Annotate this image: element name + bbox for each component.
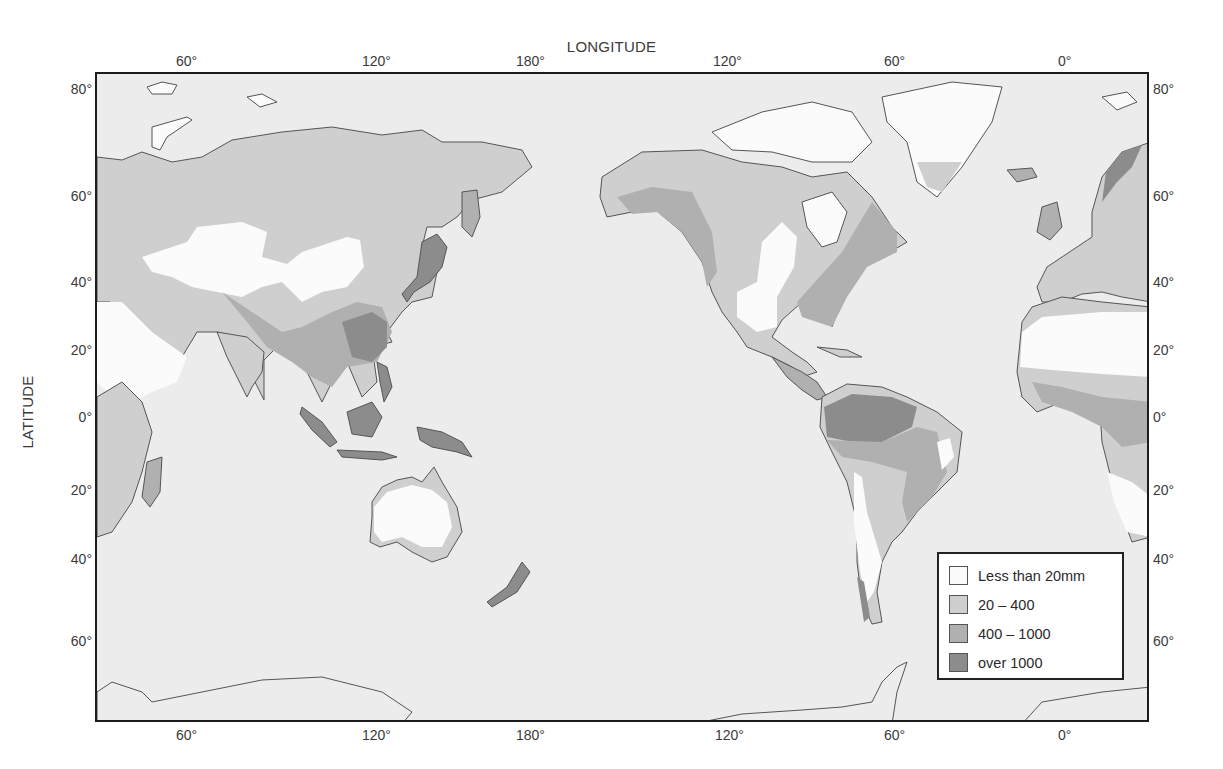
latitude-tick-label: 40°	[1153, 274, 1174, 290]
legend-label: 20 – 400	[978, 597, 1034, 613]
legend-label: 400 – 1000	[978, 626, 1051, 642]
antarctica-peninsula	[692, 662, 907, 722]
longitude-tick-label: 60°	[176, 727, 197, 743]
svalbard-east-islands	[1102, 92, 1137, 110]
java	[337, 450, 397, 460]
latitude-tick-label: 60°	[1153, 633, 1174, 649]
latitude-tick-label: 60°	[71, 633, 92, 649]
latitude-tick-label: 20°	[1153, 342, 1174, 358]
antarctica-west	[97, 677, 412, 722]
philippines	[377, 362, 392, 402]
latitude-tick-label: 60°	[1153, 188, 1174, 204]
longitude-tick-label: 120°	[713, 53, 742, 69]
latitude-tick-label: 0°	[79, 409, 92, 425]
new-guinea	[417, 427, 472, 457]
legend-label: over 1000	[978, 655, 1043, 671]
british-isles	[1037, 202, 1062, 240]
new-zealand	[487, 562, 530, 607]
precipitation-legend: Less than 20mm 20 – 400 400 – 1000 over …	[937, 552, 1124, 680]
latitude-tick-label: 20°	[1153, 482, 1174, 498]
madagascar	[142, 457, 162, 507]
legend-label: Less than 20mm	[978, 568, 1085, 584]
longitude-tick-label: 0°	[1058, 727, 1071, 743]
east-africa	[97, 382, 152, 537]
latitude-axis-title: LATITUDE	[19, 376, 36, 449]
legend-swatch-over-1000	[949, 653, 968, 672]
longitude-tick-label: 60°	[884, 727, 905, 743]
latitude-tick-label: 0°	[1153, 409, 1166, 425]
franz-josef-land	[247, 94, 277, 107]
latitude-tick-label: 20°	[71, 482, 92, 498]
cuba	[817, 347, 862, 357]
novaya-zemlya	[152, 117, 192, 150]
longitude-tick-label: 60°	[884, 53, 905, 69]
latitude-tick-label: 80°	[1153, 81, 1174, 97]
sumatra	[300, 407, 337, 447]
kamchatka	[462, 190, 480, 237]
longitude-tick-label: 120°	[362, 727, 391, 743]
legend-swatch-less-than-20	[949, 566, 968, 585]
svalbard	[147, 82, 177, 94]
antarctica-east	[1022, 687, 1149, 722]
legend-item: Less than 20mm	[949, 561, 1122, 590]
canadian-arctic-islands	[712, 102, 872, 162]
legend-item: over 1000	[949, 648, 1122, 677]
latitude-tick-label: 20°	[71, 342, 92, 358]
latitude-tick-label: 40°	[71, 551, 92, 567]
iceland	[1007, 168, 1037, 182]
longitude-tick-label: 60°	[176, 53, 197, 69]
borneo	[347, 402, 382, 437]
longitude-tick-label: 120°	[715, 727, 744, 743]
longitude-tick-label: 0°	[1058, 53, 1071, 69]
longitude-tick-label: 180°	[516, 727, 545, 743]
latitude-tick-label: 60°	[71, 188, 92, 204]
legend-swatch-20-400	[949, 595, 968, 614]
latitude-tick-label: 80°	[71, 81, 92, 97]
latitude-tick-label: 40°	[1153, 551, 1174, 567]
legend-item: 400 – 1000	[949, 619, 1122, 648]
longitude-tick-label: 120°	[362, 53, 391, 69]
latitude-tick-label: 40°	[71, 274, 92, 290]
legend-swatch-400-1000	[949, 624, 968, 643]
longitude-tick-label: 180°	[516, 53, 545, 69]
legend-item: 20 – 400	[949, 590, 1122, 619]
sahara-desert	[1020, 312, 1149, 377]
